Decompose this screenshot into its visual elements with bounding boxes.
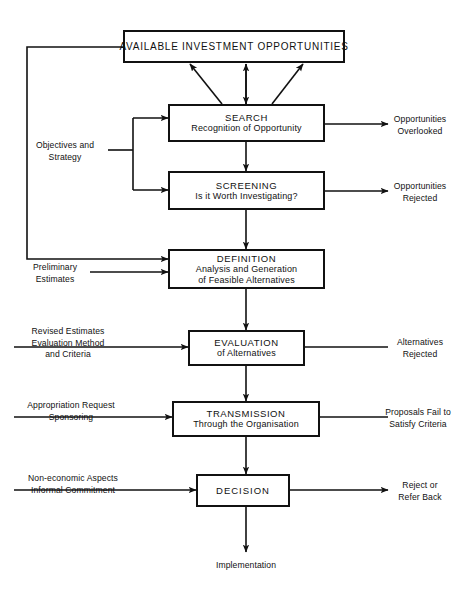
node-transmission-line1: TRANSMISSION bbox=[207, 408, 286, 419]
label-reject-line2: Refer Back bbox=[384, 492, 456, 504]
label-proposals-fail: Proposals Fail to Satisfy Criteria bbox=[378, 407, 458, 430]
label-rejected-line2: Rejected bbox=[384, 193, 456, 205]
label-overlooked-line1: Opportunities bbox=[384, 114, 456, 126]
objectives-bracket bbox=[108, 118, 168, 190]
flowchart-diagram: AVAILABLE INVESTMENT OPPORTUNITIES SEARC… bbox=[0, 0, 458, 595]
label-alt-rejected-line1: Alternatives bbox=[384, 337, 456, 349]
node-definition[interactable]: DEFINITION Analysis and Generation of Fe… bbox=[168, 249, 325, 289]
label-proposals-line2: Satisfy Criteria bbox=[378, 419, 458, 431]
node-screening[interactable]: SCREENING Is it Worth Investigating? bbox=[168, 171, 325, 210]
node-available-line1: AVAILABLE INVESTMENT OPPORTUNITIES bbox=[119, 41, 348, 53]
label-preliminary-line2: Estimates bbox=[20, 274, 90, 286]
node-decision-line1: DECISION bbox=[216, 485, 270, 496]
label-objectives-line1: Objectives and bbox=[22, 140, 108, 152]
node-search-line1: SEARCH bbox=[225, 112, 268, 123]
node-transmission-line2: Through the Organisation bbox=[193, 419, 299, 430]
label-reject-line1: Reject or bbox=[384, 480, 456, 492]
label-non-economic-aspects: Non-economic Aspects Informal Commitment bbox=[14, 473, 132, 496]
label-noneconomic-line1: Non-economic Aspects bbox=[14, 473, 132, 485]
node-screening-line2: Is it Worth Investigating? bbox=[195, 191, 297, 202]
label-revised-line2: Evaluation Method bbox=[16, 338, 120, 350]
label-appropriation-line2: Sponsoring bbox=[14, 412, 128, 424]
node-evaluation[interactable]: EVALUATION of Alternatives bbox=[188, 330, 305, 366]
node-decision[interactable]: DECISION bbox=[196, 474, 290, 507]
label-appropriation-request: Appropriation Request Sponsoring bbox=[14, 400, 128, 423]
label-revised-estimates: Revised Estimates Evaluation Method and … bbox=[16, 326, 120, 361]
label-reject-or-refer-back: Reject or Refer Back bbox=[384, 480, 456, 503]
arrows-into-available bbox=[190, 64, 303, 104]
node-screening-line1: SCREENING bbox=[216, 180, 277, 191]
node-search-line2: Recognition of Opportunity bbox=[191, 123, 301, 134]
node-transmission[interactable]: TRANSMISSION Through the Organisation bbox=[172, 401, 320, 437]
label-objectives-and-strategy: Objectives and Strategy bbox=[22, 140, 108, 163]
node-search[interactable]: SEARCH Recognition of Opportunity bbox=[168, 104, 325, 142]
label-preliminary-line1: Preliminary bbox=[20, 262, 90, 274]
label-revised-line1: Revised Estimates bbox=[16, 326, 120, 338]
node-evaluation-line1: EVALUATION bbox=[214, 337, 278, 348]
label-proposals-line1: Proposals Fail to bbox=[378, 407, 458, 419]
label-objectives-line2: Strategy bbox=[22, 152, 108, 164]
node-available-investment-opportunities[interactable]: AVAILABLE INVESTMENT OPPORTUNITIES bbox=[123, 30, 345, 63]
label-revised-line3: and Criteria bbox=[16, 349, 120, 361]
label-preliminary-estimates: Preliminary Estimates bbox=[20, 262, 90, 285]
label-noneconomic-line2: Informal Commitment bbox=[14, 485, 132, 497]
label-alt-rejected-line2: Rejected bbox=[384, 349, 456, 361]
label-opportunities-rejected: Opportunities Rejected bbox=[384, 181, 456, 204]
label-implementation: Implementation bbox=[196, 560, 296, 570]
label-opportunities-overlooked: Opportunities Overlooked bbox=[384, 114, 456, 137]
node-definition-line3: of Feasible Alternatives bbox=[198, 275, 295, 286]
node-evaluation-line2: of Alternatives bbox=[217, 348, 276, 359]
node-definition-line1: DEFINITION bbox=[217, 253, 276, 264]
label-alternatives-rejected: Alternatives Rejected bbox=[384, 337, 456, 360]
label-overlooked-line2: Overlooked bbox=[384, 126, 456, 138]
node-definition-line2: Analysis and Generation bbox=[196, 264, 298, 275]
label-rejected-line1: Opportunities bbox=[384, 181, 456, 193]
label-appropriation-line1: Appropriation Request bbox=[14, 400, 128, 412]
